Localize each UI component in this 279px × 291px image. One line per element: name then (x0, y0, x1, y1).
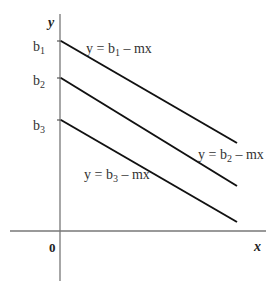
intercept-label-b2: b2 (33, 73, 45, 90)
line-1 (61, 41, 237, 143)
origin-label: 0 (49, 240, 56, 255)
equation-line-3: y = b3 – mx (84, 167, 150, 184)
intercept-label-b1: b1 (33, 39, 45, 56)
parallel-lines-diagram: y x 0 b1 b2 b3 y = b1 – mx y = b2 – mx y… (0, 0, 279, 291)
equation-line-1: y = b1 – mx (86, 41, 152, 58)
y-axis-label: y (46, 15, 55, 30)
intercept-label-b3: b3 (33, 118, 45, 135)
x-axis-label: x (253, 239, 261, 254)
equation-line-2: y = b2 – mx (198, 147, 264, 164)
